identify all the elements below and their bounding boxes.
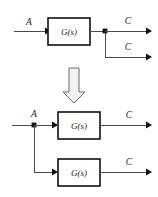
top-diagram: G(s) A C C <box>14 16 152 61</box>
top-output-label-1: C <box>125 16 132 26</box>
top-output-arrow-2-icon <box>146 54 152 61</box>
bottom-output-arrow-2-icon <box>146 169 152 176</box>
bottom-branch-1-arrow-icon <box>52 122 58 129</box>
bottom-diagram: G(s) G(s) A C C <box>12 109 152 186</box>
bottom-output-arrow-1-icon <box>146 122 152 129</box>
bottom-block-2-label: G(s) <box>71 168 87 178</box>
top-input-label: A <box>25 17 32 27</box>
block-diagram-figure: G(s) A C C <box>0 0 158 197</box>
top-block-label: G(s) <box>61 27 77 37</box>
down-arrow-icon <box>63 68 85 103</box>
transform-arrow <box>63 68 85 103</box>
bottom-output-label-2: C <box>126 157 133 167</box>
bottom-input-label: A <box>30 109 37 119</box>
bottom-output-label-1: C <box>126 110 133 120</box>
top-output-label-2: C <box>125 42 132 52</box>
bottom-block-1-label: G(s) <box>71 121 87 131</box>
top-output-arrow-1-icon <box>146 28 152 35</box>
bottom-branch-2-arrow-icon <box>52 169 58 176</box>
diagram-canvas: G(s) A C C <box>0 0 158 197</box>
